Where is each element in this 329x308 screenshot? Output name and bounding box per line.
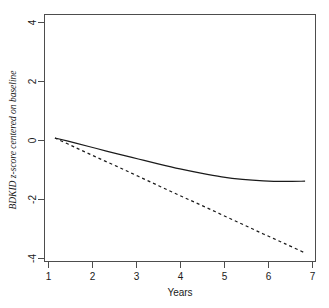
- y-tick-label-neg2: -2: [27, 195, 38, 204]
- x-axis-ticks: [49, 262, 313, 269]
- line-chart-canvas: 4 2 0 -2 -4 1 2 3 4 5 6 7 Years B: [0, 0, 329, 308]
- x-tick-label-2: 2: [90, 271, 96, 282]
- x-axis-title: Years: [167, 287, 192, 298]
- y-tick-label-neg4: -4: [27, 254, 38, 263]
- data-series-group: [55, 138, 305, 253]
- x-tick-label-6: 6: [266, 271, 272, 282]
- series-line-quadratic-trajectory: [55, 138, 305, 181]
- x-axis-tick-labels: 1 2 3 4 5 6 7: [46, 271, 316, 282]
- y-tick-label-4: 4: [27, 19, 38, 25]
- plot-area-border: [45, 15, 316, 262]
- x-tick-label-3: 3: [134, 271, 140, 282]
- series-line-linear-trajectory: [55, 138, 305, 253]
- y-tick-label-2: 2: [27, 78, 38, 84]
- x-tick-label-4: 4: [178, 271, 184, 282]
- x-tick-label-5: 5: [222, 271, 228, 282]
- y-axis-tick-labels: 4 2 0 -2 -4: [27, 19, 38, 263]
- y-tick-label-0: 0: [27, 137, 38, 143]
- y-axis-ticks: [38, 23, 45, 259]
- x-tick-label-7: 7: [310, 271, 316, 282]
- x-tick-label-1: 1: [46, 271, 52, 282]
- y-axis-title: BDKID z-score centered on baseline: [8, 70, 18, 209]
- chart-figure: 4 2 0 -2 -4 1 2 3 4 5 6 7 Years B: [0, 0, 329, 308]
